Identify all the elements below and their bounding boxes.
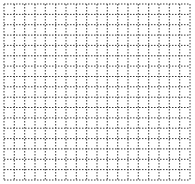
grid-canvas bbox=[0, 0, 195, 184]
graph-paper-grid bbox=[0, 0, 195, 184]
